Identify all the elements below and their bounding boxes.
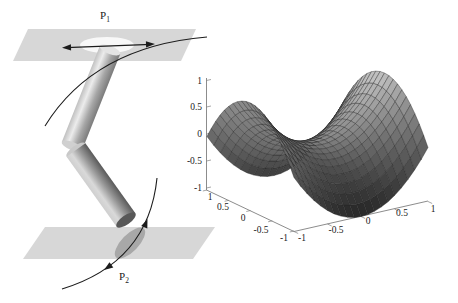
z-tick [207, 160, 212, 161]
figure-canvas: P1 P2 1 [0, 0, 458, 303]
x-tick-label: 0.5 [396, 208, 408, 218]
pendulum-diagram: P1 P2 [13, 9, 215, 289]
y-tick [246, 211, 250, 212]
lower-link-body [67, 143, 136, 226]
y-tick-label: 1 [208, 192, 213, 202]
y-tick [203, 190, 207, 191]
y-axis-labels: 1 0.5 0 -0.5 -1 [208, 192, 289, 243]
figure-svg: P1 P2 1 [0, 0, 458, 303]
surface-plot: 1 0.5 0 -0.5 -1 1 0.5 0 -0.5 -1 -1 -0.5 … [187, 71, 436, 243]
y-tick [268, 221, 272, 222]
lower-pendulum-link [64, 140, 138, 231]
z-axis-labels: 1 0.5 0 -0.5 -1 [187, 76, 202, 194]
x-tick-label: 1 [431, 204, 436, 214]
upper-link-body [62, 46, 120, 150]
z-tick-label: -0.5 [187, 156, 202, 166]
y-tick [290, 231, 294, 232]
lower-arrow-head-down-icon [104, 262, 113, 270]
z-tick [207, 106, 212, 107]
z-tick-label: 0.5 [190, 102, 202, 112]
z-tick [207, 80, 212, 81]
z-tick [207, 187, 212, 188]
x-tick-label: -0.5 [328, 225, 343, 235]
surface-mesh [207, 71, 428, 217]
x-tick-label: -1 [298, 233, 306, 243]
y-tick-label: -1 [280, 233, 288, 243]
label-p1: P1 [100, 9, 110, 24]
label-p2: P2 [119, 270, 129, 285]
y-tick-label: -0.5 [253, 225, 268, 235]
y-tick-label: 0.5 [217, 202, 229, 212]
z-tick-label: 0 [197, 129, 202, 139]
z-tick-label: -1 [194, 183, 202, 193]
x-tick [361, 217, 365, 219]
y-tick-label: 0 [241, 213, 246, 223]
z-tick-label: 1 [197, 76, 202, 86]
x-tick-label: 0 [366, 216, 371, 226]
